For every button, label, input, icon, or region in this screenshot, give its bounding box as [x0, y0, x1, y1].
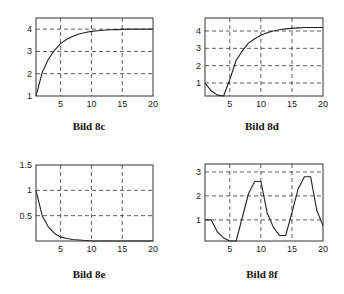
x-tick-label: 20	[148, 244, 158, 254]
x-tick-label: 10	[256, 244, 266, 254]
x-tick-label: 20	[318, 99, 328, 109]
y-tick-label: 4	[27, 24, 32, 34]
y-tick-label: 3	[196, 43, 201, 53]
data-line	[205, 28, 323, 97]
x-tick-label: 5	[227, 244, 232, 254]
y-tick-label: 3	[196, 167, 201, 177]
data-line	[205, 177, 323, 241]
y-tick-label: 1	[27, 185, 32, 195]
chart-caption: Bild 8f	[246, 268, 278, 280]
figure-grid: 51015201234Bild 8c51015201234Bild 8d5101…	[0, 0, 344, 294]
y-tick-label: 1	[196, 215, 201, 225]
y-tick-label: 0.5	[19, 211, 32, 221]
y-tick-label: 1	[196, 78, 201, 88]
y-tick-label: 1	[27, 91, 32, 101]
x-tick-label: 20	[318, 244, 328, 254]
y-tick-label: 2	[196, 191, 201, 201]
data-line	[36, 29, 153, 96]
chart-8e: 51015200.511.5Bild 8e	[19, 160, 158, 280]
chart-8d: 51015201234Bild 8d	[196, 18, 328, 132]
plot-frame	[205, 164, 323, 241]
plot-frame	[36, 165, 153, 241]
chart-8f: 5101520123Bild 8f	[196, 164, 328, 280]
x-tick-label: 10	[86, 244, 96, 254]
y-tick-label: 2	[27, 69, 32, 79]
x-tick-label: 10	[86, 99, 96, 109]
x-tick-label: 15	[287, 244, 297, 254]
chart-caption: Bild 8c	[73, 120, 106, 132]
x-tick-label: 5	[227, 99, 232, 109]
y-tick-label: 2	[196, 61, 201, 71]
x-tick-label: 15	[117, 99, 127, 109]
x-tick-label: 15	[117, 244, 127, 254]
chart-caption: Bild 8d	[245, 120, 279, 132]
x-tick-label: 5	[58, 244, 63, 254]
x-tick-label: 10	[256, 99, 266, 109]
x-tick-label: 15	[287, 99, 297, 109]
plot-frame	[205, 18, 323, 96]
y-tick-label: 3	[27, 46, 32, 56]
plot-frame	[36, 18, 153, 96]
x-tick-label: 5	[58, 99, 63, 109]
chart-8c: 51015201234Bild 8c	[27, 18, 158, 132]
x-tick-label: 20	[148, 99, 158, 109]
y-tick-label: 1.5	[19, 160, 32, 170]
chart-caption: Bild 8e	[73, 268, 106, 280]
y-tick-label: 4	[196, 26, 201, 36]
